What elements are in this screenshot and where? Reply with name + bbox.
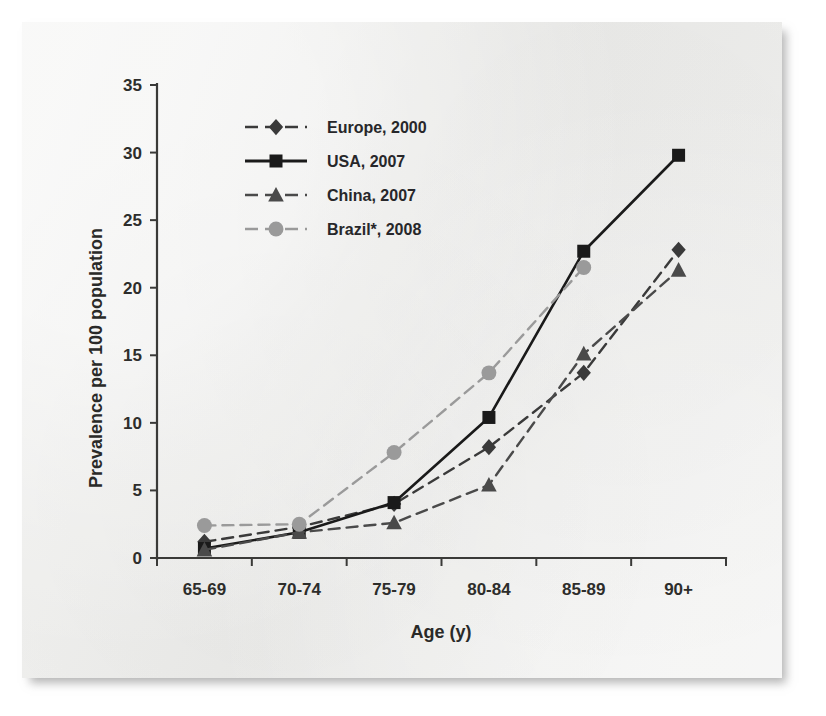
legend-item: Brazil*, 2008 — [245, 221, 421, 238]
x-axis-title-text: Age (y) — [410, 622, 471, 642]
triangle-marker — [671, 262, 687, 277]
square-marker — [482, 411, 495, 424]
y-tick-label: 0 — [133, 549, 142, 568]
square-marker — [388, 496, 401, 509]
circle-marker — [197, 518, 212, 533]
legend-item: USA, 2007 — [245, 153, 405, 170]
series-line — [204, 270, 678, 550]
y-axis-title: Prevalence per 100 population — [86, 228, 106, 488]
circle-marker — [292, 517, 307, 532]
y-tick-label: 20 — [123, 279, 142, 298]
triangle-marker — [576, 346, 592, 361]
x-tick-label: 70-74 — [278, 580, 322, 599]
x-tick-label: 75-79 — [372, 580, 415, 599]
diamond-marker — [482, 439, 496, 455]
triangle-marker — [481, 477, 497, 492]
series-circle — [197, 260, 591, 533]
y-tick-label: 15 — [123, 346, 142, 365]
legend-item: Europe, 2000 — [245, 119, 427, 136]
x-tick-label: 90+ — [664, 580, 693, 599]
square-marker — [577, 245, 590, 258]
y-axis-ticks: 05101520253035 — [123, 76, 157, 568]
circle-marker — [576, 260, 591, 275]
series-square — [198, 149, 685, 555]
series-triangle — [197, 262, 687, 556]
x-tick-label: 65-69 — [183, 580, 226, 599]
square-marker — [270, 155, 283, 168]
x-axis-ticks: 65-6970-7475-7980-8485-8990+ — [157, 558, 726, 599]
legend-label: USA, 2007 — [327, 153, 405, 170]
y-tick-label: 30 — [123, 144, 142, 163]
series-line — [204, 155, 678, 548]
series-line — [204, 250, 678, 542]
triangle-marker — [386, 515, 402, 530]
circle-marker — [387, 445, 402, 460]
square-marker — [672, 149, 685, 162]
series-layer — [197, 149, 687, 557]
circle-marker — [269, 222, 284, 237]
figure-root: Prevalence per 100 population 0510152025… — [0, 0, 826, 716]
legend-label: China, 2007 — [327, 187, 416, 204]
x-tick-label: 80-84 — [467, 580, 511, 599]
x-tick-label: 85-89 — [562, 580, 605, 599]
circle-marker — [481, 365, 496, 380]
legend-item: China, 2007 — [245, 187, 416, 204]
line-chart: Prevalence per 100 population 0510152025… — [0, 0, 826, 716]
diamond-marker — [671, 242, 685, 258]
y-tick-label: 10 — [123, 414, 142, 433]
diamond-marker — [269, 119, 283, 135]
y-axis-title-text: Prevalence per 100 population — [86, 228, 106, 488]
legend-label: Brazil*, 2008 — [327, 221, 421, 238]
y-tick-label: 35 — [123, 76, 142, 95]
chart-legend: Europe, 2000USA, 2007China, 2007Brazil*,… — [245, 119, 427, 238]
series-line — [204, 267, 583, 525]
y-tick-label: 25 — [123, 211, 142, 230]
legend-label: Europe, 2000 — [327, 119, 427, 136]
y-tick-label: 5 — [133, 481, 142, 500]
